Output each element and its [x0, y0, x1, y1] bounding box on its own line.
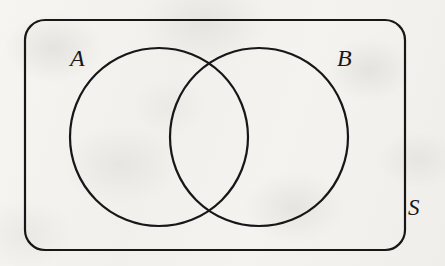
- set-a-label: A: [70, 46, 85, 70]
- set-b-circle: [170, 48, 348, 226]
- venn-diagram-figure: A B S: [0, 0, 445, 266]
- venn-diagram-canvas: [0, 0, 445, 266]
- universal-set-label: S: [408, 196, 420, 219]
- set-a-circle: [70, 48, 248, 226]
- set-b-label: B: [337, 46, 352, 70]
